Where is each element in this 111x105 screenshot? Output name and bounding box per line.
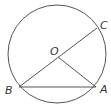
circle-diagram: C O B A — [0, 0, 111, 105]
label-c: C — [100, 19, 108, 32]
label-o: O — [50, 45, 59, 58]
label-b: B — [5, 84, 13, 97]
label-a: A — [99, 83, 108, 96]
radius-oa — [58, 57, 96, 87]
